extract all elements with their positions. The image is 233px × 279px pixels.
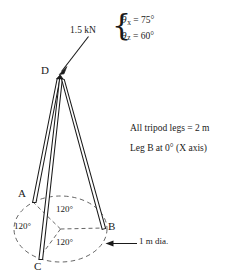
node-label-d: D: [41, 65, 49, 77]
note-leg-b-orientation: Leg B at 0° (X axis): [130, 144, 207, 154]
apex-joint: [57, 75, 63, 79]
node-label-a: A: [18, 188, 26, 200]
theta-z-subscript: z: [127, 33, 131, 42]
base-angle-label-top: 120°: [56, 205, 73, 214]
force-magnitude-label: 1.5 kN: [70, 26, 96, 36]
diameter-label: 1 m dia.: [139, 237, 168, 246]
force-direction-angles: θx = 75° θz = 60°: [121, 13, 154, 44]
theta-z-symbol: θ: [121, 30, 127, 41]
theta-z-row: θz = 60°: [121, 29, 154, 45]
theta-z-value: 60°: [141, 31, 154, 41]
base-angle-label-bottom: 120°: [56, 238, 73, 247]
radius-line-to-b: [61, 228, 105, 229]
theta-x-value: 75°: [141, 15, 154, 25]
theta-x-row: θx = 75°: [121, 13, 154, 29]
node-label-b: B: [108, 221, 115, 233]
diameter-arrow: [106, 240, 138, 246]
theta-x-subscript: x: [127, 18, 131, 27]
note-leg-length: All tripod legs = 2 m: [130, 124, 210, 134]
force-arrow: [59, 37, 88, 75]
theta-x-equals: =: [133, 15, 138, 25]
node-label-c: C: [34, 261, 41, 273]
theta-z-equals: =: [133, 31, 138, 41]
base-angle-label-left: 120°: [14, 222, 31, 231]
theta-x-symbol: θ: [121, 14, 127, 25]
tripod-force-diagram: 1.5 kN { θx = 75° θz = 60° D A B C All t…: [0, 0, 233, 279]
